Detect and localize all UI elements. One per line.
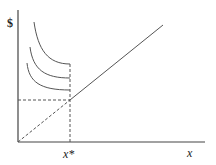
curve-top [34, 22, 70, 64]
diagonal-dashed-segment [18, 100, 70, 142]
y-axis-label: $ [7, 16, 13, 30]
curve-bottom [27, 63, 70, 90]
x-axis-label: x [186, 146, 193, 160]
diagonal-solid-line [70, 25, 163, 100]
curve-middle [30, 47, 70, 78]
diagram-canvas: $ x x* [0, 0, 216, 165]
x-star-label: x* [62, 147, 74, 161]
